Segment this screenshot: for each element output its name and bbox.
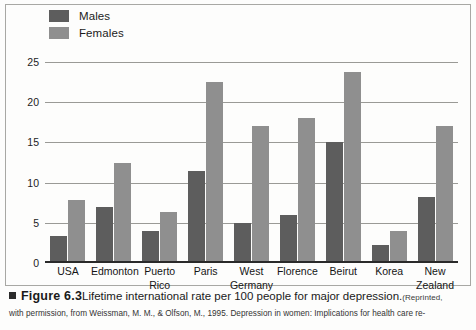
x-axis-label-puerto-rico: Puerto Rico	[137, 265, 183, 292]
x-axis-label-florence: Florence	[274, 265, 320, 279]
bars-layer	[45, 62, 458, 263]
bar-males-west-germany	[234, 223, 251, 263]
figure-caption: Figure 6.3Lifetime international rate pe…	[9, 289, 471, 320]
caption-source-open: (Reprinted,	[402, 293, 442, 302]
y-tick-label-20: 20	[9, 96, 39, 108]
bar-males-usa	[50, 236, 67, 263]
legend-label-males: Males	[79, 10, 110, 22]
bar-females-paris	[206, 82, 223, 263]
x-axis-label-new-zealand: New Zealand	[412, 265, 458, 292]
plot-area	[45, 62, 458, 263]
bar-males-florence	[280, 215, 297, 263]
bar-females-edmonton	[114, 163, 131, 264]
y-tick-label-15: 15	[9, 136, 39, 148]
caption-line-1: Figure 6.3Lifetime international rate pe…	[9, 289, 471, 305]
legend-swatch-males	[49, 10, 69, 22]
y-tick-label-5: 5	[9, 217, 39, 229]
x-axis-label-paris: Paris	[183, 265, 229, 279]
legend-swatch-females	[49, 27, 69, 39]
y-tick-label-25: 25	[9, 56, 39, 68]
legend-item-females: Females	[49, 24, 229, 41]
chart-legend: Males Females	[49, 7, 229, 41]
x-axis-label-edmonton: Edmonton	[91, 265, 137, 279]
bar-females-korea	[390, 231, 407, 263]
caption-figure-number: Figure 6.3	[21, 289, 82, 303]
x-axis-line	[45, 261, 458, 263]
bar-males-edmonton	[96, 207, 113, 263]
legend-label-females: Females	[79, 27, 124, 39]
bar-females-west-germany	[252, 126, 269, 263]
bar-females-beirut	[344, 72, 361, 263]
legend-item-males: Males	[49, 7, 229, 24]
y-axis-ticks: 0510152025	[0, 62, 39, 263]
caption-line-2: with permission, from Weissman, M. M., &…	[9, 308, 471, 320]
bar-females-usa	[68, 200, 85, 263]
figure-page: Males Females Lifetime rate per 100 peop…	[0, 0, 476, 330]
bar-females-new-zealand	[436, 126, 453, 263]
bar-females-puerto-rico	[160, 212, 177, 263]
y-tick-label-10: 10	[9, 177, 39, 189]
x-axis-label-usa: USA	[45, 265, 91, 279]
bar-males-new-zealand	[418, 197, 435, 263]
caption-bullet-icon	[9, 292, 16, 299]
x-axis-label-korea: Korea	[366, 265, 412, 279]
x-axis-label-beirut: Beirut	[320, 265, 366, 279]
y-tick-label-0: 0	[9, 257, 39, 269]
bar-males-puerto-rico	[142, 231, 159, 263]
bar-males-paris	[188, 171, 205, 263]
bar-females-florence	[298, 118, 315, 263]
bar-males-beirut	[326, 142, 343, 263]
x-axis-label-west-germany: West Germany	[229, 265, 275, 292]
caption-main-text: Lifetime international rate per 100 peop…	[82, 290, 402, 302]
